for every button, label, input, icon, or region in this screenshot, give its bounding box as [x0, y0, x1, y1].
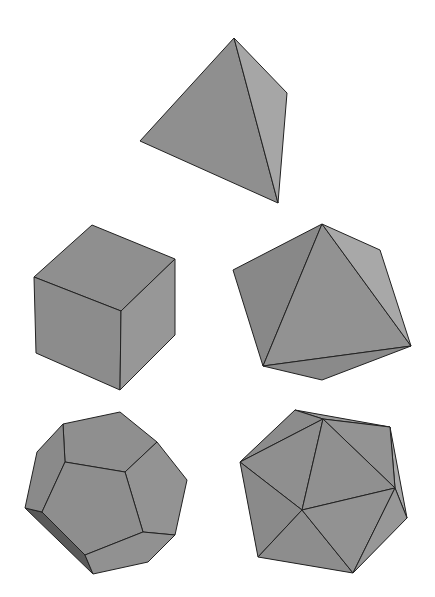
icosahedron: [240, 410, 407, 573]
cube: [34, 225, 175, 390]
tetrahedron: [140, 38, 287, 203]
octahedron: [233, 224, 411, 380]
platonic-solids-figure: [0, 0, 435, 597]
dodecahedron: [25, 412, 187, 574]
